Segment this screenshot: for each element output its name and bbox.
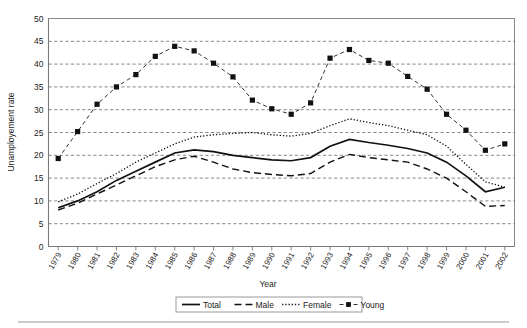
unemployment-rate-chart: 05101520253035404550 1979198019811982198…	[0, 0, 527, 328]
y-tick-label: 30	[34, 105, 44, 115]
data-point-marker	[75, 129, 80, 134]
data-point-marker	[192, 48, 197, 53]
y-tick-label: 35	[34, 82, 44, 92]
chart-legend: TotalMaleFemaleYoung	[176, 297, 385, 312]
data-point-marker	[289, 112, 294, 117]
data-point-marker	[347, 47, 352, 52]
legend-label-female: Female	[303, 300, 332, 310]
data-point-marker	[405, 74, 410, 79]
data-point-marker	[211, 61, 216, 66]
y-tick-label: 50	[34, 14, 44, 24]
data-point-marker	[327, 56, 332, 61]
data-point-marker	[308, 100, 313, 105]
data-point-marker	[153, 54, 158, 59]
data-point-marker	[463, 128, 468, 133]
data-point-marker	[172, 44, 177, 49]
legend-label-total: Total	[203, 300, 221, 310]
data-point-marker	[269, 106, 274, 111]
legend-label-young: Young	[361, 300, 385, 310]
y-tick-label: 5	[39, 219, 44, 229]
y-tick-label: 40	[34, 59, 44, 69]
data-point-marker	[133, 72, 138, 77]
legend-label-male: Male	[256, 300, 275, 310]
data-point-marker	[94, 102, 99, 107]
y-tick-label: 10	[34, 196, 44, 206]
data-point-marker	[444, 112, 449, 117]
data-point-marker	[366, 58, 371, 63]
data-point-marker	[114, 84, 119, 89]
y-tick-label: 15	[34, 173, 44, 183]
y-tick-label: 25	[34, 128, 44, 138]
data-point-marker	[386, 61, 391, 66]
y-tick-label: 0	[39, 242, 44, 252]
legend-marker-young	[346, 302, 351, 307]
data-point-marker	[230, 74, 235, 79]
y-tick-label: 45	[34, 36, 44, 46]
data-point-marker	[250, 98, 255, 103]
data-point-marker	[483, 148, 488, 153]
data-point-marker	[56, 156, 61, 161]
data-point-marker	[502, 141, 507, 146]
data-point-marker	[425, 87, 430, 92]
y-tick-label: 20	[34, 150, 44, 160]
x-axis-title: Year	[259, 279, 276, 289]
y-axis-title: Unamployement rate	[6, 92, 16, 171]
chart-canvas: 05101520253035404550 1979198019811982198…	[0, 0, 527, 328]
